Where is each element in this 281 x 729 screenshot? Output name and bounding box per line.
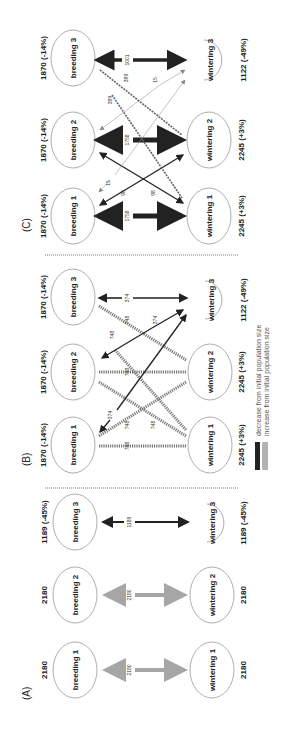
svg-text:1870 (-14%): 1870 (-14%) (39, 423, 48, 467)
svg-text:1122 (-49%): 1122 (-49%) (239, 278, 248, 322)
panel-label-a: (A) (21, 687, 32, 700)
node-b-breeding-2: breeding 2 1870 (-14%) (39, 344, 95, 400)
svg-text:748: 748 (150, 421, 156, 430)
svg-text:2180: 2180 (126, 664, 132, 675)
node-a-breeding-2: breeding 2 2180 (40, 567, 97, 623)
svg-text:breeding 1: breeding 1 (69, 195, 78, 236)
svg-text:748: 748 (124, 368, 130, 377)
svg-text:15: 15 (105, 180, 111, 186)
legend-swatch-decrease (255, 442, 260, 470)
pop-c-b3: 1870 (-14%) (39, 36, 48, 80)
svg-text:748: 748 (124, 316, 130, 325)
node-b-wintering-3: wintering 3 1122 (-49%) (205, 278, 248, 322)
node-a-wintering-3: wintering 3 1189 (-45%) (207, 501, 248, 545)
flows-c: 1001 1758 1758 98 98 15 15 (97, 54, 185, 221)
svg-text:15: 15 (152, 77, 158, 83)
svg-text:1189: 1189 (126, 516, 132, 527)
svg-text:374: 374 (124, 294, 130, 303)
svg-text:98: 98 (120, 190, 126, 196)
svg-text:389: 389 (123, 74, 129, 83)
node-a-wintering-1: wintering 1 2180 (190, 642, 248, 698)
node-b-wintering-1: wintering 1 2245 (+3%) (188, 417, 246, 473)
svg-text:1758: 1758 (124, 134, 130, 145)
svg-text:1001: 1001 (124, 54, 130, 65)
svg-text:1870 (-14%): 1870 (-14%) (39, 275, 48, 319)
flows-b: 374 748 748 748 748 748 748 374 374 (99, 294, 187, 451)
node-b-breeding-3: breeding 3 1870 (-14%) (39, 269, 95, 325)
panel-a: (A) breeding 3 1189 (-45%) breeding 2 21… (21, 494, 248, 700)
legend: decrease from initial population size in… (255, 325, 271, 470)
legend-swatch-increase (263, 442, 267, 470)
svg-text:2180: 2180 (40, 586, 49, 604)
node-c-wintering-3: wintering 3 1122 (-49%) (204, 38, 248, 82)
pop-c-w2: 2245 (+3%) (237, 119, 246, 161)
svg-text:1189 (-45%): 1189 (-45%) (40, 500, 49, 544)
svg-text:breeding 2: breeding 2 (69, 351, 78, 392)
node-a-breeding-1: breeding 1 2180 (40, 642, 97, 698)
migration-diagram: (C) breeding 3 1870 (-14%) breeding 2 18… (0, 0, 281, 729)
svg-text:2180: 2180 (40, 661, 49, 679)
svg-text:748: 748 (124, 442, 130, 451)
svg-text:wintering 3: wintering 3 (207, 278, 216, 322)
flows-a: 1189 2180 2180 (103, 516, 188, 675)
svg-text:wintering 2: wintering 2 (208, 573, 217, 617)
svg-text:breeding 2: breeding 2 (69, 119, 78, 160)
pop-c-w3: 1122 (-49%) (239, 38, 248, 82)
node-c-breeding-2: breeding 2 1870 (-14%) (39, 112, 95, 168)
svg-text:wintering 3: wintering 3 (208, 501, 217, 545)
panel-b: (B) breeding 3 1870 (-14%) breeding 2 18… (21, 269, 248, 473)
svg-text:breeding 1: breeding 1 (69, 424, 78, 465)
svg-text:wintering 1: wintering 1 (208, 648, 217, 692)
svg-text:1758: 1758 (124, 210, 130, 221)
legend-decrease-label: decrease from initial population size (255, 325, 263, 436)
svg-text:389: 389 (107, 96, 113, 105)
svg-text:2245 (+3%): 2245 (+3%) (237, 351, 246, 393)
pop-c-b1: 1870 (-14%) (39, 194, 48, 238)
svg-text:1870 (-14%): 1870 (-14%) (39, 350, 48, 394)
svg-text:wintering 1: wintering 1 (205, 194, 214, 238)
svg-text:wintering 2: wintering 2 (206, 350, 215, 394)
node-a-breeding-3: breeding 3 1189 (-45%) (40, 494, 97, 550)
panel-c: (C) breeding 3 1870 (-14%) breeding 2 18… (21, 30, 248, 244)
svg-text:2180: 2180 (126, 589, 132, 600)
svg-text:374: 374 (107, 411, 113, 420)
svg-text:2180: 2180 (239, 661, 248, 679)
pop-c-b2: 1870 (-14%) (39, 118, 48, 162)
node-b-breeding-1: breeding 1 1870 (-14%) (39, 417, 95, 473)
svg-text:breeding 1: breeding 1 (71, 649, 80, 690)
node-c-wintering-2: wintering 2 2245 (+3%) (187, 112, 246, 168)
svg-text:374: 374 (152, 316, 158, 325)
legend-increase-label: increase from initial population size (263, 327, 271, 436)
node-a-wintering-2: wintering 2 2180 (190, 567, 248, 623)
svg-text:breeding 2: breeding 2 (71, 574, 80, 615)
svg-text:breeding 3: breeding 3 (71, 501, 80, 542)
svg-text:748: 748 (109, 331, 115, 340)
svg-text:breeding 3: breeding 3 (69, 37, 78, 78)
svg-text:1189 (-45%): 1189 (-45%) (239, 501, 248, 545)
node-c-breeding-1: breeding 1 1870 (-14%) (39, 188, 95, 244)
svg-text:wintering 3: wintering 3 (206, 38, 215, 82)
panel-label-c: (C) (21, 218, 32, 232)
svg-text:2245 (+3%): 2245 (+3%) (237, 424, 246, 466)
svg-text:wintering 2: wintering 2 (205, 118, 214, 162)
node-c-wintering-1: wintering 1 2245 (+3%) (187, 188, 246, 244)
node-b-wintering-2: wintering 2 2245 (+3%) (188, 344, 246, 400)
panel-label-b: (B) (21, 453, 32, 466)
pop-c-w1: 2245 (+3%) (237, 195, 246, 237)
svg-text:2180: 2180 (239, 586, 248, 604)
svg-text:wintering 1: wintering 1 (206, 423, 215, 467)
svg-text:98: 98 (150, 190, 156, 196)
node-c-breeding-3: breeding 3 1870 (-14%) (39, 30, 95, 86)
svg-text:breeding 3: breeding 3 (69, 276, 78, 317)
svg-text:748: 748 (124, 421, 130, 430)
